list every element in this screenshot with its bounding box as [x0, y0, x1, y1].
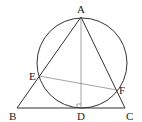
segment-ef [39, 76, 117, 90]
label-c: C [126, 110, 133, 122]
circle [37, 18, 127, 108]
label-b: B [9, 110, 16, 122]
geometry-diagram: A B C D E F [0, 0, 142, 122]
label-a: A [77, 3, 85, 15]
label-e: E [29, 70, 36, 82]
label-f: F [119, 84, 125, 96]
segment-ab [17, 17, 81, 108]
label-d: D [77, 110, 85, 122]
